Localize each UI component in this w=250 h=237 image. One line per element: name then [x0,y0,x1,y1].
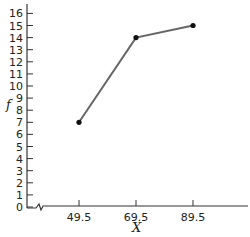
y-tick-label: 9 [16,92,23,105]
y-tick-label: 0 [16,201,23,214]
y-tick-label: 11 [9,68,23,81]
data-point-marker [133,35,138,40]
x-axis-title: X [131,220,142,235]
y-axis-ticks: 012345678910111213141516 [9,7,33,214]
data-point-marker [76,120,81,125]
y-tick-label: 3 [16,165,23,178]
x-tick-label: 49.5 [67,211,92,224]
x-axis-with-break [27,204,248,210]
y-tick-label: 7 [16,116,23,129]
y-tick-label: 6 [16,128,23,141]
data-point-marker [190,23,195,28]
y-tick-label: 14 [9,32,23,45]
y-tick-label: 1 [16,189,23,202]
y-tick-label: 13 [9,44,23,57]
y-tick-label: 16 [9,7,23,20]
x-tick-label: 89.5 [181,211,206,224]
data-markers [76,23,195,125]
y-tick-label: 2 [16,177,23,190]
y-axis-title: f [5,97,13,112]
y-tick-label: 10 [9,80,23,93]
frequency-polygon-chart: 012345678910111213141516 49.569.589.5 f … [0,0,250,237]
y-tick-label: 15 [9,20,23,33]
y-tick-label: 8 [16,104,23,117]
y-tick-label: 5 [16,141,23,154]
y-tick-label: 4 [16,153,23,166]
y-tick-label: 12 [9,56,23,69]
